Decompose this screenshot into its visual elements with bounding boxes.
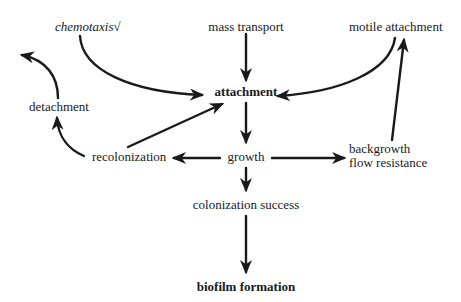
edge-detachment-out (22, 55, 58, 98)
node-backgrowth: backgrowth (349, 142, 410, 156)
node-motile-attachment: motile attachment (349, 20, 443, 34)
edge-motile-attachment-attachment (278, 38, 395, 96)
edge-chemotaxis-attachment (80, 36, 202, 95)
node-mass-transport: mass transport (208, 20, 283, 34)
edge-recolonization-detachment (57, 118, 84, 156)
node-chemotaxis: chemotaxis√ (55, 20, 121, 34)
node-flow-resistance: flow resistance (349, 156, 427, 170)
node-biofilm-formation: biofilm formation (197, 280, 296, 294)
node-detachment: detachment (29, 100, 89, 114)
edge-recolonization-attachment (128, 104, 222, 147)
node-colonization-success: colonization success (193, 198, 300, 212)
diagram-canvas: chemotaxis√ mass transport motile attach… (0, 0, 461, 302)
node-recolonization: recolonization (92, 150, 166, 164)
node-growth: growth (228, 150, 265, 164)
node-attachment: attachment (215, 85, 278, 99)
edge-backgrowth-motile-attachment (392, 40, 404, 140)
